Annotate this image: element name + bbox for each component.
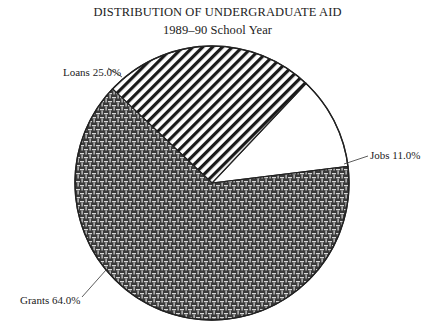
leader-line: [82, 270, 106, 297]
label-loans: Loans 25.0%: [63, 66, 121, 78]
label-grants: Grants 64.0%: [20, 294, 81, 306]
label-jobs: Jobs 11.0%: [370, 149, 420, 161]
pie-chart: [0, 0, 435, 332]
